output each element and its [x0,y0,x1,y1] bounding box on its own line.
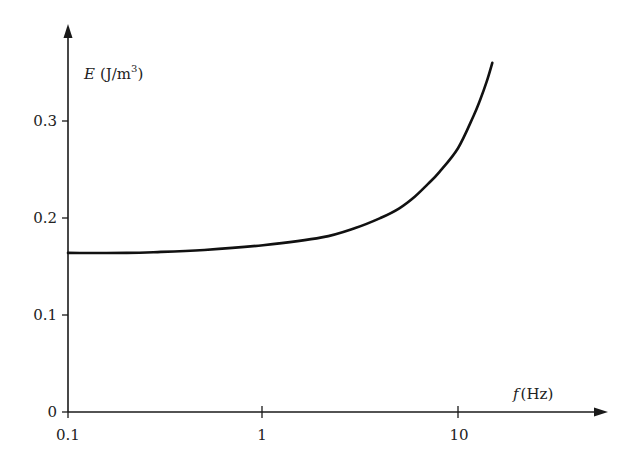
energy-curve [68,63,492,253]
y-ticks [62,121,68,412]
y-tick-label: 0 [47,403,57,421]
x-axis-title: f(Hz) [512,385,553,403]
y-tick-label: 0.2 [33,209,57,227]
chart: 0 0.1 0.2 0.3 0.1 1 10 E(J/m3) f(Hz) [0,0,639,464]
x-tick-label: 10 [449,426,468,444]
x-tick-label: 0.1 [56,426,80,444]
x-axis-arrow-icon [594,408,608,417]
y-axis-title: E(J/m3) [83,63,143,83]
y-tick-label: 0.3 [33,112,57,130]
x-tick-label: 1 [257,426,267,444]
y-axis-arrow-icon [64,24,73,38]
y-tick-label: 0.1 [33,306,57,324]
